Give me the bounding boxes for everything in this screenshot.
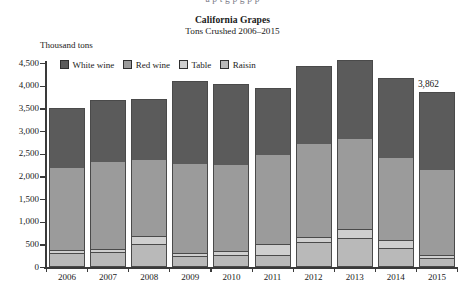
bar-segment-table [296,238,332,243]
x-tick-mark [334,268,335,272]
y-axis-unit-label: Thousand tons [40,40,93,50]
bar-segment-raisin [213,256,249,267]
bar-segment-table [255,245,291,256]
y-tick-label: 0 [5,263,39,272]
bar-segment-red-wine [49,168,85,251]
x-tick-label-2009: 2009 [172,272,208,282]
bar-segment-red-wine [213,165,249,252]
bar-segment-red-wine [255,155,291,245]
chart-root: a p t g p g p p California Grapes Tons C… [0,0,465,298]
x-tick-label-2010: 2010 [213,272,249,282]
x-tick-label-2006: 2006 [49,272,85,282]
bar-2007[interactable] [90,63,126,267]
bar-segment-table [90,250,126,253]
x-tick-label-2014: 2014 [378,272,414,282]
x-tick-mark [87,268,88,272]
bar-2014[interactable] [378,63,414,267]
bar-segment-white-wine [131,99,167,160]
y-tick-label: 2,000 [5,172,39,181]
x-tick-mark [457,268,458,272]
bar-segment-table [419,256,455,259]
bar-2009[interactable] [172,63,208,267]
bar-2013[interactable] [337,63,373,267]
x-tick-mark [128,268,129,272]
bar-segment-red-wine [131,160,167,236]
y-tick-label: 4,500 [5,59,39,68]
bar-segment-raisin [296,243,332,267]
bar-segment-table [337,230,373,239]
cropped-text-line: a p t g p g p p [0,0,465,5]
x-tick-label-2008: 2008 [131,272,167,282]
bar-segment-table [131,237,167,246]
y-tick-label: 1,500 [5,195,39,204]
x-tick-label-2013: 2013 [337,272,373,282]
bar-segment-raisin [378,249,414,267]
x-tick-mark [416,268,417,272]
bar-segment-raisin [49,254,85,267]
x-tick-mark [252,268,253,272]
bar-2015[interactable] [419,63,455,267]
bar-2008[interactable] [131,63,167,267]
bar-segment-white-wine [90,100,126,162]
bar-2011[interactable] [255,63,291,267]
y-axis-tick-labels: 05001,0001,5002,0002,5003,0003,5004,0004… [0,0,39,298]
chart-subtitle: Tons Crushed 2006–2015 [0,26,465,36]
bar-segment-table [172,254,208,257]
x-tick-mark [210,268,211,272]
bar-segment-white-wine [213,84,249,164]
bar-segment-table [213,252,249,256]
bar-segment-raisin [131,245,167,267]
bar-segment-white-wine [172,81,208,164]
bar-segment-raisin [90,253,126,267]
y-tick-label: 3,000 [5,127,39,136]
bar-segment-red-wine [90,162,126,250]
bar-segment-raisin [419,259,455,267]
x-tick-label-2015: 2015 [419,272,455,282]
bar-segment-raisin [337,239,373,267]
bar-segment-white-wine [378,78,414,157]
bar-segment-raisin [172,257,208,267]
bar-segment-red-wine [172,164,208,254]
x-tick-label-2011: 2011 [255,272,291,282]
bar-segment-white-wine [419,92,455,170]
plot-area [45,63,458,267]
y-tick-label: 1,000 [5,217,39,226]
chart-title: California Grapes [0,14,465,25]
x-tick-label-2012: 2012 [296,272,332,282]
bar-segment-red-wine [419,170,455,256]
x-tick-mark [293,268,294,272]
value-annotation-2015: 3,862 [418,79,439,89]
x-tick-mark [375,268,376,272]
bar-segment-white-wine [337,60,373,139]
bar-segment-white-wine [49,108,85,168]
x-tick-label-2007: 2007 [90,272,126,282]
y-tick-label: 500 [5,240,39,249]
bar-segment-raisin [255,256,291,267]
bar-2010[interactable] [213,63,249,267]
x-tick-mark [169,268,170,272]
bar-segment-white-wine [255,88,291,155]
bar-2006[interactable] [49,63,85,267]
bar-segment-red-wine [337,139,373,230]
x-tick-mark [46,268,47,272]
y-tick-label: 4,000 [5,81,39,90]
bar-2012[interactable] [296,63,332,267]
bar-segment-white-wine [296,66,332,144]
y-tick-label: 3,500 [5,104,39,113]
bar-segment-table [378,241,414,249]
y-tick-label: 2,500 [5,149,39,158]
bar-segment-table [49,251,85,254]
bar-segment-red-wine [296,144,332,238]
bar-segment-red-wine [378,158,414,241]
